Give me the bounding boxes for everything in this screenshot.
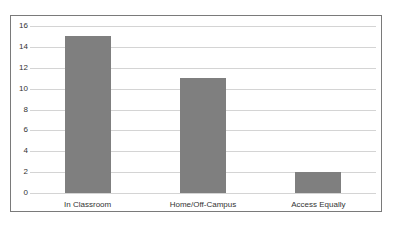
y-tick-label: 4	[10, 147, 28, 155]
y-tick-label: 14	[10, 43, 28, 51]
y-tick-label: 2	[10, 168, 28, 176]
gridline	[30, 193, 376, 194]
bar	[180, 78, 226, 193]
y-tick-label: 10	[10, 85, 28, 93]
y-tick-label: 6	[10, 126, 28, 134]
y-tick-label: 0	[10, 189, 28, 197]
y-tick-label: 12	[10, 64, 28, 72]
y-tick-label: 16	[10, 22, 28, 30]
y-tick-label: 8	[10, 106, 28, 114]
x-tick-label: Access Equally	[263, 200, 373, 209]
x-tick-label: Home/Off-Campus	[148, 200, 258, 209]
gridline	[30, 26, 376, 27]
bar	[65, 36, 111, 193]
x-tick-label: In Classroom	[33, 200, 143, 209]
bar	[295, 172, 341, 193]
plot-area	[30, 26, 376, 193]
